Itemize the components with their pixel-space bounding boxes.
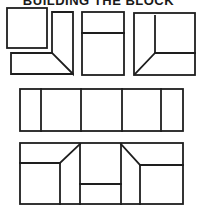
two-part-rectangle-unit	[82, 12, 124, 75]
l-shaped-mitered-corner-pieces	[11, 12, 73, 74]
block-diagram	[0, 0, 197, 210]
square-piece	[7, 8, 47, 48]
mitered-corner-square-unit	[134, 13, 195, 75]
assembled-block	[20, 143, 183, 204]
assembled-strip	[20, 89, 183, 131]
